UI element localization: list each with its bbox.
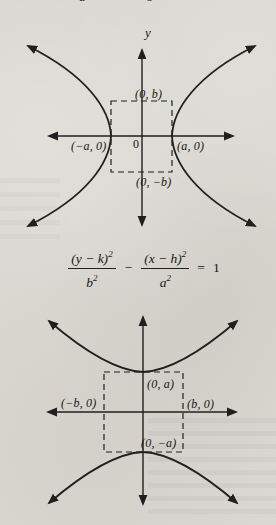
lower-branch-left-arm xyxy=(49,452,143,503)
left-branch-upper-arm xyxy=(28,46,111,136)
fraction-1-numerator: (y − k)2 xyxy=(68,247,115,269)
vertex-bottom-label: (0, −b) xyxy=(136,175,172,190)
horizontal-hyperbola-diagram xyxy=(28,46,255,226)
origin-label: 0 xyxy=(133,137,139,152)
right-hand-side: 1 xyxy=(213,260,220,276)
vertex-top-label: (0, b) xyxy=(135,87,162,102)
upper-branch-right-arm xyxy=(143,321,237,372)
fraction-1-denominator: b2 xyxy=(86,269,97,290)
right-branch-upper-arm xyxy=(172,46,255,136)
hyperbola-equation: (y − k)2 b2 − (x − h)2 a2 = 1 xyxy=(0,247,276,289)
minus-operator: − xyxy=(124,260,134,276)
vertex-top-label-2: (0, a) xyxy=(147,377,174,392)
vertex-bottom-label-2: (0, −a) xyxy=(141,436,177,451)
x-intercept-left-label: (−b, 0) xyxy=(61,396,97,411)
fraction-2-numerator: (x − h)2 xyxy=(141,247,189,269)
lower-branch-right-arm xyxy=(143,452,237,503)
vertex-left-label: (−a, 0) xyxy=(71,139,107,154)
y-axis-label: y xyxy=(145,25,151,41)
equals-sign: = xyxy=(197,260,205,276)
scanned-textbook-page: a b xyxy=(0,0,276,525)
upper-branch-left-arm xyxy=(49,321,143,372)
fraction-1: (y − k)2 b2 xyxy=(68,247,115,289)
vertex-right-label: (a, 0) xyxy=(177,139,204,154)
fraction-2-denominator: a2 xyxy=(160,269,171,290)
fraction-2: (x − h)2 a2 xyxy=(141,247,189,289)
x-intercept-right-label: (b, 0) xyxy=(187,397,214,412)
